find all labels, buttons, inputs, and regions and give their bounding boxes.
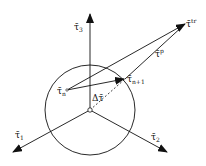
tau-n-point <box>66 89 68 91</box>
label-tau2: τ̄2 <box>151 132 160 143</box>
axis-tau1 <box>13 110 90 152</box>
label-tau-n: τ̄n <box>57 86 66 97</box>
axis-tau2 <box>90 110 167 152</box>
delta-tau-vector <box>67 79 124 90</box>
label-tau-tr: τ̄tr <box>186 17 196 29</box>
label-tau1: τ̄1 <box>15 130 24 141</box>
origin-point <box>88 108 92 112</box>
yield-surface-diagram: τ̄3 τ̄1 τ̄2 τ̄tr τ̄p τ̄n+1 τ̄n Δτ̄ <box>0 0 206 166</box>
label-tau3: τ̄3 <box>74 22 83 33</box>
trial-vector <box>67 24 185 90</box>
label-tau-p: τ̄p <box>155 47 164 59</box>
label-tau-n1: τ̄n+1 <box>127 74 145 85</box>
label-delta-tau: Δτ̄ <box>92 93 103 103</box>
